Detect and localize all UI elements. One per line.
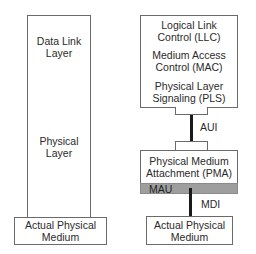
aui-top-connector — [175, 107, 208, 115]
mdi-label: MDI — [201, 198, 220, 210]
data-link-layer-label: Data Link Layer — [37, 35, 81, 59]
physical-layer-label: Physical Layer — [39, 135, 78, 159]
pls-box: Physical Layer Signaling (PLS) — [140, 76, 238, 108]
mac-label: Medium Access Control (MAC) — [152, 49, 226, 73]
pls-label: Physical Layer Signaling (PLS) — [153, 80, 226, 104]
physical-layer-box: Physical Layer — [27, 77, 91, 218]
left-actual-physical-medium-box: Actual Physical Medium — [14, 217, 107, 245]
data-link-layer-box: Data Link Layer — [27, 15, 91, 78]
aui-label: AUI — [200, 121, 218, 133]
llc-box: Logical Link Control (LLC) — [140, 15, 238, 46]
mac-box: Medium Access Control (MAC) — [140, 45, 238, 77]
right-actual-physical-medium-label: Actual Physical Medium — [154, 219, 225, 243]
pma-box: Physical Medium Attachment (PMA) — [140, 150, 238, 184]
left-actual-physical-medium-label: Actual Physical Medium — [25, 219, 96, 243]
llc-label: Logical Link Control (LLC) — [157, 19, 220, 43]
mdi-cable-line — [189, 188, 192, 217]
right-actual-physical-medium-box: Actual Physical Medium — [146, 216, 233, 245]
pma-label: Physical Medium Attachment (PMA) — [146, 155, 232, 179]
mau-label: MAU — [149, 183, 172, 195]
aui-cable-line — [190, 115, 193, 142]
